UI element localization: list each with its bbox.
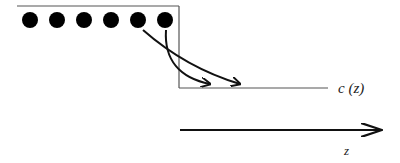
z-axis-label: z <box>343 143 349 158</box>
particle-dot-icon <box>49 12 65 28</box>
diffusion-arrow-1-icon <box>166 30 210 84</box>
diffusion-arrow-2-icon <box>143 30 240 84</box>
particle-dot-icon <box>130 12 146 28</box>
diffusion-diagram: c (z) z <box>0 0 400 163</box>
diffusion-arrows <box>143 30 240 84</box>
particle-dot-icon <box>22 12 38 28</box>
concentration-label: c (z) <box>338 80 364 97</box>
particles <box>22 12 173 28</box>
particle-dot-icon <box>76 12 92 28</box>
particle-dot-icon <box>157 12 173 28</box>
particle-dot-icon <box>103 12 119 28</box>
